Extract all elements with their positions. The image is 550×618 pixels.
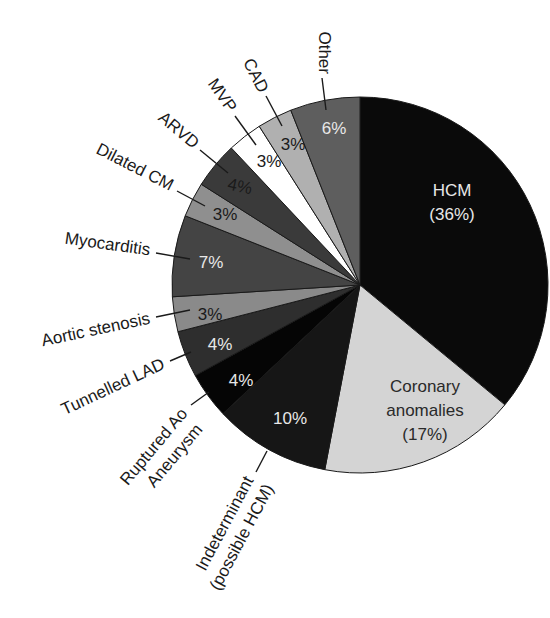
other-label: Other [315, 31, 334, 74]
other-pct: 6% [322, 119, 347, 138]
cad-label: CAD [239, 55, 272, 96]
arvd-label: ARVD [155, 108, 203, 153]
mvp-label: MVP [204, 75, 241, 116]
ruptured-leader [191, 392, 209, 405]
coronary-line1: Coronary [390, 377, 460, 396]
dilated-cm-label: Dilated CM [93, 139, 177, 194]
hcm-pct-label: (36%) [429, 205, 474, 224]
myocarditis-label: Myocarditis [64, 229, 152, 260]
coronary-line2: anomalies [386, 401, 464, 420]
aortic-pct: 3% [198, 305, 223, 324]
cad-pct: 3% [281, 135, 306, 154]
pie-slices [172, 97, 548, 473]
dilated-pct: 3% [213, 205, 238, 224]
mvp-pct: 3% [257, 152, 282, 171]
ruptured-pct: 4% [229, 371, 254, 390]
indeterminant-pct: 10% [273, 409, 307, 428]
indeterminant-leader [256, 451, 267, 472]
tunnelled-lad-label: Tunnelled LAD [58, 354, 167, 418]
aortic-stenosis-label: Aortic stenosis [40, 309, 152, 351]
myocarditis-pct: 7% [199, 253, 224, 272]
coronary-pct: (17%) [402, 425, 447, 444]
tunnelled-pct: 4% [208, 335, 233, 354]
hcm-name-label: HCM [433, 181, 472, 200]
pie-chart: HCM (36%) Coronary anomalies (17%) 10% 4… [0, 0, 550, 618]
